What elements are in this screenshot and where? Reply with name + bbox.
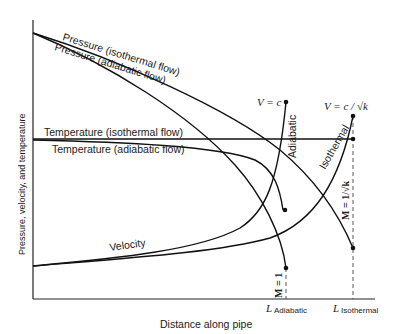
label-temperature-adiabatic: Temperature (adiabatic flow): [52, 143, 184, 155]
y-axis-title: Pressure, velocity, and temperature: [17, 114, 27, 255]
label-isothermal: Isothermal: [316, 123, 351, 171]
pressure-isothermal-curve: [33, 33, 353, 248]
label-v-eq-c: V = c: [257, 96, 281, 108]
temp-adia-end-point: [283, 208, 288, 213]
label-temperature-isothermal: Temperature (isothermal flow): [44, 126, 183, 138]
x-axis-title: Distance along pipe: [160, 318, 252, 330]
label-m-eq-1-sqrtk: M = 1/√k: [340, 181, 351, 220]
label-velocity: Velocity: [109, 236, 147, 253]
m-eq-1-point: [284, 266, 289, 271]
label-m-eq-1: M = 1: [273, 273, 284, 298]
v-eq-c-point: [284, 100, 289, 105]
temp-iso-end-point: [351, 137, 356, 142]
label-l-adiabatic-sub: Adiabatic: [274, 306, 307, 315]
label-v-eq-c-sqrtk: V = c / √k: [324, 100, 369, 112]
m-eq-1-sqrtk-point: [351, 246, 356, 251]
pipe-flow-diagram: Pressure (isothermal flow) Pressure (adi…: [0, 0, 396, 334]
v-eq-c-sqrtk-point: [351, 114, 356, 119]
label-l-isothermal-sub: Isothermal: [341, 306, 379, 315]
label-l-isothermal-L: L: [332, 302, 339, 314]
label-adiabatic: Adiabatic: [286, 115, 298, 158]
label-l-adiabatic-L: L: [265, 302, 272, 314]
